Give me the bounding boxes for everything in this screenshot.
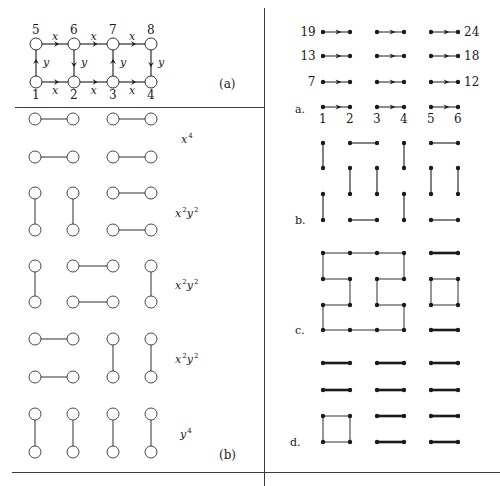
term-label: x2y2 <box>175 204 198 220</box>
lattice-dot <box>429 303 433 307</box>
lattice-dot <box>429 328 433 332</box>
matching-node <box>67 187 79 199</box>
node-label-7: 7 <box>109 24 117 36</box>
section-c-cycles <box>321 251 460 332</box>
edge-label-x: x <box>52 85 58 97</box>
matching-node <box>145 151 157 163</box>
row-label-right: 12 <box>464 76 479 88</box>
lattice-dot <box>402 361 406 365</box>
divider-top-left <box>15 107 265 108</box>
lattice-dot <box>321 54 325 58</box>
graph-node <box>68 38 80 50</box>
edge-label-x: x <box>91 31 97 43</box>
figure-canvas <box>0 0 500 486</box>
lattice-dot <box>402 388 406 392</box>
lattice-dot <box>348 218 352 222</box>
lattice-dot <box>402 166 406 170</box>
lattice-dot <box>402 192 406 196</box>
matching-node <box>29 260 41 272</box>
graph-node <box>107 76 119 88</box>
lattice-dot <box>429 388 433 392</box>
column-number: 6 <box>454 113 462 125</box>
graph-node <box>145 38 157 50</box>
lattice-dot <box>375 54 379 58</box>
node-label-5: 5 <box>32 24 40 36</box>
lattice-dot <box>429 105 433 109</box>
lattice-dot <box>348 192 352 196</box>
lattice-dot <box>402 303 406 307</box>
lattice-dot <box>429 80 433 84</box>
lattice-dot <box>456 328 460 332</box>
matching-node <box>29 371 41 383</box>
matching-node <box>67 371 79 383</box>
lattice-dot <box>456 105 460 109</box>
lattice-dot <box>375 166 379 170</box>
column-number: 4 <box>400 113 408 125</box>
matching-node <box>145 224 157 236</box>
divider-bottom <box>12 472 500 473</box>
lattice-dot <box>321 388 325 392</box>
lattice-dot <box>348 54 352 58</box>
lattice-dot <box>375 218 379 222</box>
lattice-dot <box>456 361 460 365</box>
lattice-dot <box>429 54 433 58</box>
lattice-dot <box>375 192 379 196</box>
section-a-arrows <box>321 30 460 110</box>
lattice-dot <box>348 361 352 365</box>
matching-node <box>29 151 41 163</box>
matching-node <box>107 408 119 420</box>
lattice-dot <box>402 414 406 418</box>
lattice-dot <box>321 251 325 255</box>
matching-node <box>29 296 41 308</box>
matching-node <box>145 187 157 199</box>
node-label-6: 6 <box>70 24 78 36</box>
lattice-dot <box>456 166 460 170</box>
section-a-label: a. <box>295 104 305 116</box>
edge-label-y: y <box>43 57 49 69</box>
row-label-left: 13 <box>300 50 315 62</box>
lattice-dot <box>429 166 433 170</box>
lattice-dot <box>402 80 406 84</box>
lattice-dot <box>375 30 379 34</box>
graph-node <box>145 76 157 88</box>
lattice-dot <box>456 54 460 58</box>
matching-node <box>107 113 119 125</box>
matching-node <box>107 371 119 383</box>
edge-label-x: x <box>91 85 97 97</box>
lattice-dot <box>348 105 352 109</box>
matching-node <box>67 224 79 236</box>
lattice-dot <box>321 328 325 332</box>
edge-label-y: y <box>158 57 164 69</box>
lattice-dot <box>375 388 379 392</box>
lattice-dot <box>375 303 379 307</box>
lattice-dot <box>402 440 406 444</box>
matching-node <box>107 296 119 308</box>
matching-node <box>67 151 79 163</box>
matching-node <box>29 446 41 458</box>
node-label-1: 1 <box>32 89 40 101</box>
section-b-dimers <box>321 141 460 222</box>
lattice-dot <box>429 141 433 145</box>
matching-node <box>107 151 119 163</box>
lattice-dot <box>456 141 460 145</box>
matching-node <box>67 333 79 345</box>
column-number: 5 <box>427 113 435 125</box>
matching-node <box>67 446 79 458</box>
node-label-3: 3 <box>109 89 117 101</box>
column-number: 3 <box>373 113 381 125</box>
matching-node <box>145 260 157 272</box>
row-label-right: 18 <box>464 50 479 62</box>
lattice-dot <box>321 303 325 307</box>
matching-node <box>29 408 41 420</box>
lattice-dot <box>456 218 460 222</box>
edge-label-x: x <box>129 85 135 97</box>
lattice-dot <box>429 218 433 222</box>
lattice-dot <box>321 440 325 444</box>
lattice-dot <box>375 80 379 84</box>
lattice-dot <box>348 251 352 255</box>
matching-node <box>145 113 157 125</box>
lattice-dot <box>402 218 406 222</box>
lattice-dot <box>429 30 433 34</box>
panel-a-label: (a) <box>219 78 236 90</box>
lattice-dot <box>348 166 352 170</box>
